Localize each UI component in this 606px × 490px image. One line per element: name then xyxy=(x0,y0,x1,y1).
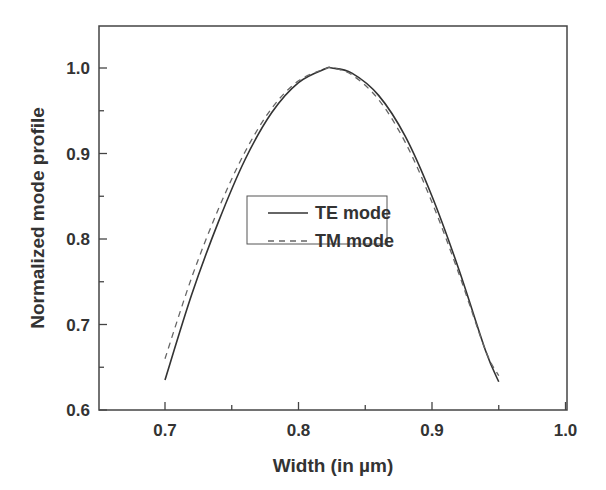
x-tick-label: 0.9 xyxy=(420,421,444,440)
y-axis-title: Normalized mode profile xyxy=(27,107,48,329)
y-tick-label: 1.0 xyxy=(66,59,90,78)
y-tick-label: 0.6 xyxy=(66,401,90,420)
legend: TE mode TM mode xyxy=(247,196,394,251)
y-tick-label: 0.7 xyxy=(66,316,90,335)
x-tick-label: 0.8 xyxy=(287,421,311,440)
line-chart: 0.70.80.91.00.60.70.80.91.0 Width (in µm… xyxy=(0,0,606,490)
legend-te-label: TE mode xyxy=(315,203,391,223)
y-tick-label: 0.8 xyxy=(66,230,90,249)
x-tick-label: 1.0 xyxy=(554,421,578,440)
x-tick-label: 0.7 xyxy=(153,421,177,440)
y-tick-label: 0.9 xyxy=(66,145,90,164)
legend-tm-label: TM mode xyxy=(315,231,394,251)
x-axis-title: Width (in µm) xyxy=(273,455,394,476)
